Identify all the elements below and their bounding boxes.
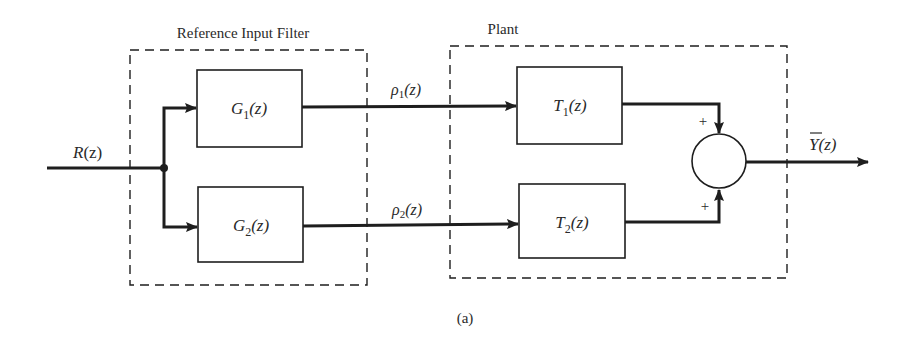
input-signal-label: R(z)	[72, 143, 102, 162]
block-t2: T2(z)	[519, 184, 625, 258]
svg-text:ρ2(z): ρ2(z)	[391, 201, 422, 220]
rho2-signal-label: ρ2(z)	[391, 201, 422, 220]
svg-text:ρ1(z): ρ1(z)	[390, 81, 421, 100]
summing-junction	[692, 134, 746, 188]
sum-bottom-sign: +	[701, 198, 709, 214]
block-g2: G2(z)	[198, 187, 303, 262]
svg-text:R(z): R(z)	[72, 143, 102, 162]
output-signal-label: Y(z)	[809, 133, 837, 154]
rho1-signal-arrow	[302, 106, 516, 107]
svg-text:Y(z): Y(z)	[809, 135, 837, 154]
block-t1: T1(z)	[517, 67, 622, 144]
figure-caption: (a)	[457, 310, 474, 327]
branch-to-g1-arrow	[164, 108, 196, 168]
sum-top-sign: +	[699, 113, 707, 129]
branch-to-g2-arrow	[164, 168, 197, 227]
rho2-signal-arrow	[303, 224, 518, 226]
block-diagram: Reference Input Filter Plant R(z) G1(z) …	[0, 0, 904, 345]
plant-group-title: Plant	[488, 21, 520, 37]
rho1-signal-label: ρ1(z)	[390, 81, 421, 100]
filter-group-title: Reference Input Filter	[177, 25, 309, 41]
block-g1: G1(z)	[197, 70, 302, 147]
